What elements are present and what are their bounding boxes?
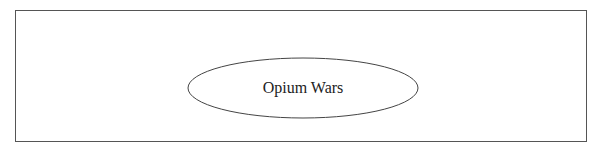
node-label: Opium Wars xyxy=(263,79,344,97)
node-opium-wars: Opium Wars xyxy=(188,58,418,118)
diagram-canvas: Opium Wars xyxy=(0,0,604,150)
